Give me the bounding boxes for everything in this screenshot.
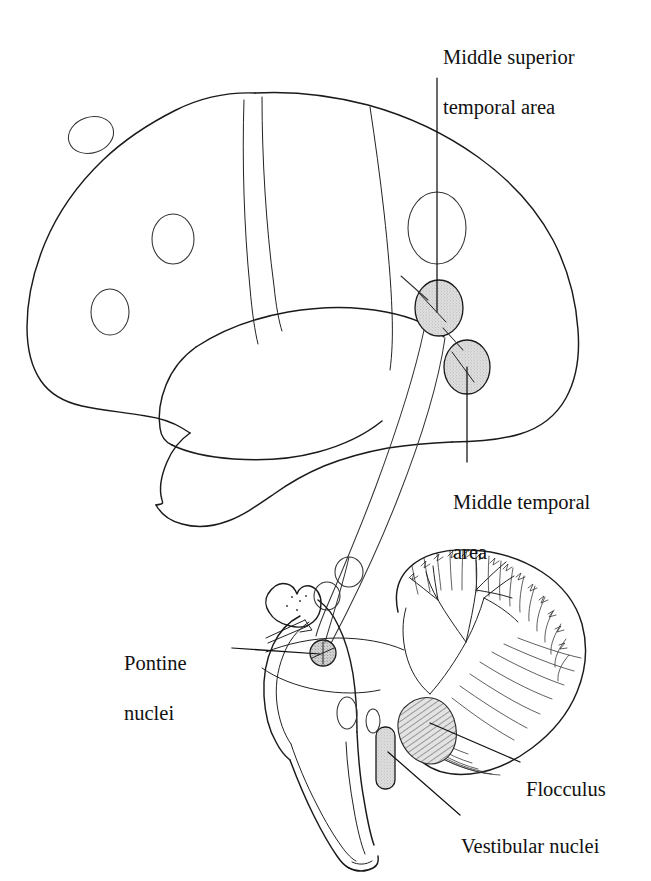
label-middle-superior-temporal-area: Middle superior temporal area	[443, 20, 575, 120]
figure-root: Middle superior temporal area Middle tem…	[0, 0, 651, 881]
label-middle-temporal-area: Middle temporal area	[453, 465, 590, 565]
vestibular-label-line-1: Vestibular nuclei	[461, 835, 599, 857]
mst-label-line-1: Middle superior	[443, 46, 575, 68]
anatomical-illustration	[0, 0, 651, 881]
vestibular-nuclei-bar	[376, 727, 395, 789]
canvas-background	[0, 0, 651, 881]
flocculus-label-line-1: Flocculus	[526, 778, 606, 800]
mst-region-ellipse	[415, 280, 463, 336]
mt-label-line-2: area	[453, 541, 487, 563]
label-vestibular-nuclei: Vestibular nuclei	[461, 809, 599, 859]
pontine-label-line-2: nuclei	[124, 702, 174, 724]
mt-label-line-1: Middle temporal	[453, 491, 590, 513]
pontine-label-line-1: Pontine	[124, 652, 187, 674]
label-flocculus: Flocculus	[526, 752, 606, 802]
mst-label-line-2: temporal area	[443, 96, 555, 118]
label-pontine-nuclei: Pontine nuclei	[124, 626, 187, 726]
